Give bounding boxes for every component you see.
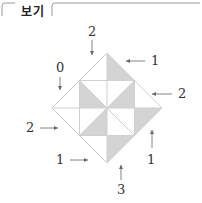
label-top: 2 <box>88 24 96 39</box>
label-lower-right: 1 <box>147 152 155 167</box>
arrow-right-icon <box>152 92 172 96</box>
arrow-lower-right-icon <box>150 130 154 148</box>
arrow-bottom-icon <box>119 165 123 180</box>
label-left: 2 <box>26 120 34 135</box>
grid-lines <box>52 53 162 163</box>
arrow-lower-left-icon <box>70 158 88 162</box>
arrow-left-icon <box>40 126 58 130</box>
arrow-top-right-icon <box>126 59 145 63</box>
pinwheel-diagram: 2 1 0 2 2 1 1 3 <box>0 0 202 203</box>
label-top-right: 1 <box>151 53 159 68</box>
arrow-upper-left-icon <box>58 77 62 90</box>
label-lower-left: 1 <box>56 152 64 167</box>
label-upper-left: 0 <box>56 60 64 75</box>
label-bottom: 3 <box>117 182 125 197</box>
label-right: 2 <box>178 86 186 101</box>
arrow-top-icon <box>90 40 94 55</box>
